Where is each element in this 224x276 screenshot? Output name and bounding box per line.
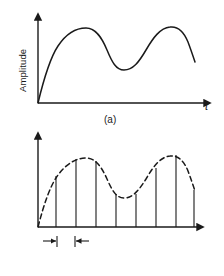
panel-a-x-axis-label: t <box>205 100 208 112</box>
panel-b-sampled-signal: Amplitude nT T (b) <box>0 130 224 276</box>
panel-a-caption: (a) <box>104 114 116 125</box>
panel-b-sample-stems <box>56 155 194 227</box>
panel-a-y-axis-label: Amplitude <box>17 49 28 92</box>
period-indicator <box>43 236 89 247</box>
panel-b-plot <box>0 130 224 276</box>
figure-sampling-diagram: Amplitude t (a) <box>0 0 224 276</box>
panel-a-signal-curve <box>38 27 195 103</box>
panel-a-continuous-signal: Amplitude t (a) <box>0 0 224 138</box>
